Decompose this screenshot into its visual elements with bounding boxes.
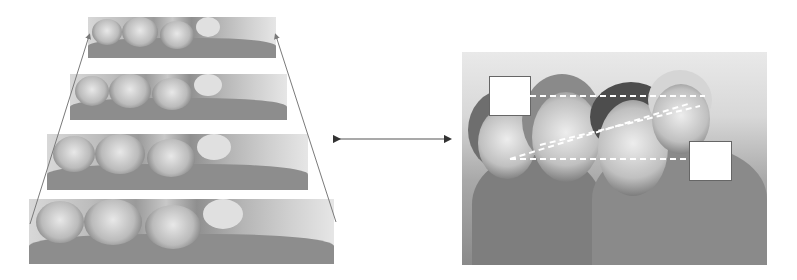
dashed-alignment-lines xyxy=(0,0,797,280)
